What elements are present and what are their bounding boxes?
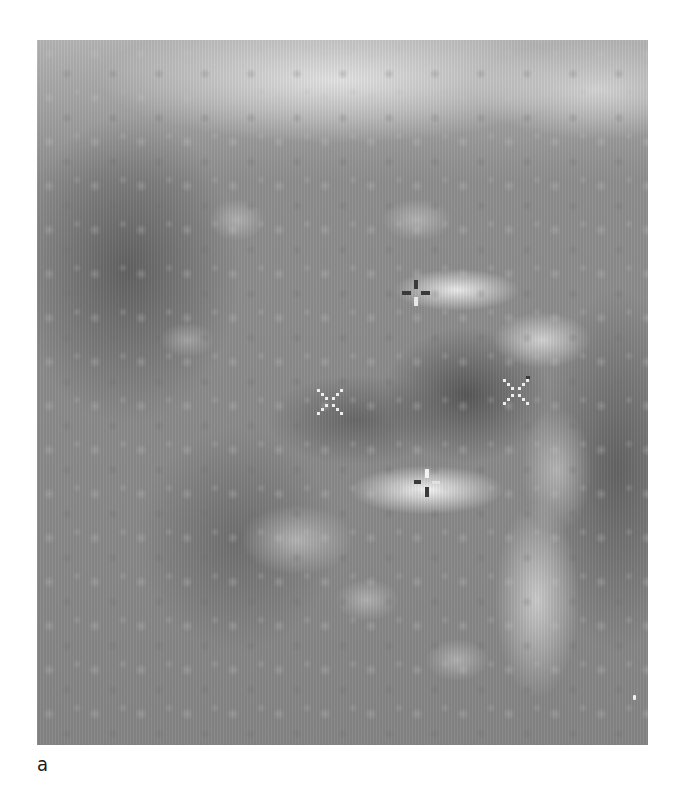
- caliper-x-icon: [310, 382, 350, 422]
- caliper-plus-icon: [396, 273, 436, 313]
- caliper-plus-icon: [407, 463, 447, 503]
- caliper-x-icon: [496, 372, 536, 412]
- artifact-speck: [633, 695, 636, 700]
- figure-label: a: [37, 752, 48, 776]
